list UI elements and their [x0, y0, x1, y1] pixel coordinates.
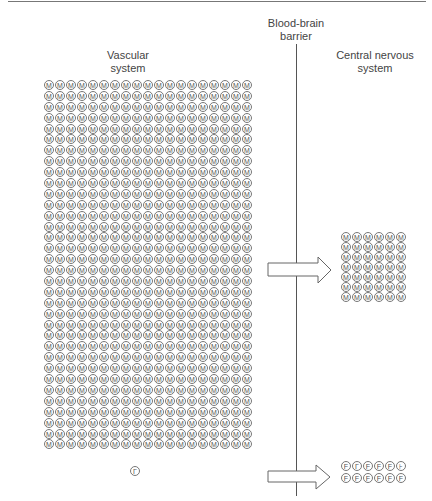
molecule: M — [198, 320, 208, 330]
molecule: M — [231, 439, 241, 449]
molecule: M — [132, 276, 142, 286]
molecule: M — [187, 287, 197, 297]
molecule: M — [187, 102, 197, 112]
molecule: M — [132, 167, 142, 177]
molecule: M — [198, 330, 208, 340]
molecule: M — [99, 178, 109, 188]
molecule: M — [396, 282, 406, 292]
molecule: M — [220, 178, 230, 188]
molecule: M — [242, 102, 252, 112]
molecule: M — [154, 102, 164, 112]
molecule: M — [77, 429, 87, 439]
molecule: M — [165, 298, 175, 308]
molecule: M — [77, 254, 87, 264]
molecule: M — [88, 243, 98, 253]
molecule: M — [44, 396, 54, 406]
molecule: M — [209, 167, 219, 177]
molecule: M — [154, 374, 164, 384]
molecule: M — [165, 243, 175, 253]
molecule: M — [187, 211, 197, 221]
molecule: M — [198, 439, 208, 449]
molecule: M — [88, 254, 98, 264]
molecule: M — [165, 113, 175, 123]
molecule: M — [44, 178, 54, 188]
molecule: M — [176, 189, 186, 199]
molecule: M — [66, 113, 76, 123]
molecule: M — [121, 254, 131, 264]
molecule: M — [88, 113, 98, 123]
molecule: M — [242, 309, 252, 319]
molecule: M — [231, 418, 241, 428]
molecule: M — [132, 156, 142, 166]
central-nervous-system-label: Central nervous system — [320, 49, 430, 75]
molecule: M — [209, 211, 219, 221]
molecule: M — [110, 320, 120, 330]
molecule: M — [77, 200, 87, 210]
molecule: M — [99, 418, 109, 428]
molecule: M — [209, 91, 219, 101]
molecule: M — [176, 352, 186, 362]
molecule: M — [154, 254, 164, 264]
molecule: M — [187, 189, 197, 199]
molecule: M — [209, 243, 219, 253]
molecule: M — [165, 222, 175, 232]
molecule: M — [154, 309, 164, 319]
arrow-right-icon — [266, 255, 334, 285]
molecule: M — [55, 232, 65, 242]
molecule: M — [88, 222, 98, 232]
molecule: M — [209, 298, 219, 308]
molecule: M — [143, 298, 153, 308]
molecule: M — [77, 276, 87, 286]
molecule: M — [176, 374, 186, 384]
molecule: M — [77, 211, 87, 221]
molecule: M — [55, 298, 65, 308]
molecule: M — [231, 91, 241, 101]
molecule: M — [231, 396, 241, 406]
molecule: M — [110, 211, 120, 221]
molecule: M — [220, 330, 230, 340]
molecule: M — [110, 124, 120, 134]
molecule: M — [110, 80, 120, 90]
molecule: M — [88, 396, 98, 406]
molecule: M — [99, 276, 109, 286]
molecule: M — [396, 242, 406, 252]
molecule: M — [121, 222, 131, 232]
molecule: M — [66, 80, 76, 90]
molecule: M — [187, 309, 197, 319]
molecule: M — [121, 341, 131, 351]
molecule: M — [44, 363, 54, 373]
molecule: M — [99, 374, 109, 384]
molecule: M — [154, 113, 164, 123]
molecule: M — [44, 167, 54, 177]
molecule: M — [154, 91, 164, 101]
molecule: M — [132, 102, 142, 112]
molecule: M — [143, 243, 153, 253]
molecule: M — [165, 189, 175, 199]
molecule: M — [44, 320, 54, 330]
molecule: M — [121, 265, 131, 275]
molecule: M — [132, 320, 142, 330]
molecule: M — [110, 102, 120, 112]
label-line: system — [78, 62, 178, 75]
molecule: M — [154, 418, 164, 428]
molecule: M — [374, 252, 384, 262]
molecule: M — [121, 396, 131, 406]
molecule: M — [385, 272, 395, 282]
molecule: M — [77, 341, 87, 351]
molecule: M — [121, 124, 131, 134]
molecule: M — [132, 222, 142, 232]
molecule: M — [396, 262, 406, 272]
molecule: M — [198, 113, 208, 123]
molecule: Γ — [352, 461, 362, 471]
molecule: M — [77, 102, 87, 112]
molecule: M — [341, 242, 351, 252]
molecule: M — [176, 396, 186, 406]
molecule: M — [121, 200, 131, 210]
molecule: M — [77, 352, 87, 362]
molecule: M — [88, 287, 98, 297]
molecule: M — [176, 320, 186, 330]
molecule: M — [110, 243, 120, 253]
molecule: M — [44, 156, 54, 166]
molecule: M — [187, 418, 197, 428]
molecule: M — [220, 211, 230, 221]
